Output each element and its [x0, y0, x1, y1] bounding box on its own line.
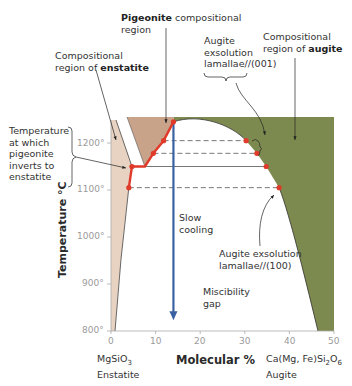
right-endmember-label: Ca(Mg, Fe)Si2O6 Augite	[266, 353, 342, 381]
y-axis-title: Temperature °C	[56, 181, 69, 278]
augite-point	[264, 164, 269, 169]
pigeonite-point	[151, 151, 156, 156]
pigeonite-region-label: Pigeonite compositional region	[121, 12, 241, 35]
enstatite-region-label: Compositional region of enstatite	[55, 50, 149, 73]
pigeonite-point	[129, 164, 134, 169]
y-tick-label: 800°	[82, 325, 104, 335]
inversion-temperature-label: Temperature at which pigeonite inverts t…	[9, 125, 69, 183]
inversion-brace	[68, 127, 76, 187]
y-tick-label: 1200°	[77, 138, 104, 148]
augite-point	[277, 185, 282, 190]
x-axis-title: Molecular %	[176, 353, 255, 367]
lamellae-100-leader	[260, 195, 274, 246]
enstatite-region	[111, 120, 132, 331]
x-tick-label: 50	[328, 336, 339, 346]
phase-diagram	[0, 0, 352, 386]
left-endmember-label: MgSiO3 Enstatite	[97, 353, 139, 381]
y-tick-label: 1000°	[77, 231, 104, 241]
y-tick-label: 1100°	[77, 184, 104, 194]
slow-cooling-label: Slow cooling	[179, 212, 213, 235]
x-tick-label: 20	[194, 336, 205, 346]
lamellae-001-brace	[204, 73, 247, 81]
x-tick-label: 10	[150, 336, 161, 346]
pigeonite-point	[126, 185, 131, 190]
x-tick-label: 40	[284, 336, 295, 346]
enstatite-leader	[96, 70, 116, 140]
cooling-arrowhead	[169, 311, 177, 320]
augite-point	[244, 138, 249, 143]
miscibility-gap-label: Miscibility gap	[203, 286, 250, 309]
y-tick-label: 900°	[82, 278, 104, 288]
pigeonite-point	[161, 138, 166, 143]
lamellae-001-label: Augite exsolution lamallae//(001)	[204, 35, 276, 70]
pigeonite-point	[171, 119, 176, 124]
x-tick-label: 30	[239, 336, 250, 346]
lamellae-100-label: Augite exsolution lamallae//(100)	[219, 248, 302, 271]
x-tick-label: 0	[108, 336, 114, 346]
